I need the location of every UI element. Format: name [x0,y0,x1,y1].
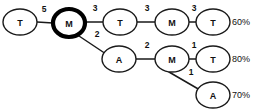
nodes-layer: TMTMTAMTA [3,9,230,108]
outcome-percentage-label: 70% [232,90,250,100]
edge-weight-label: 2 [95,29,100,39]
node-n1-t[interactable]: T [3,9,37,35]
edge-weight-label: 1 [192,40,197,50]
node-label: M [168,55,176,65]
node-label: A [116,55,123,65]
node-n3-t[interactable]: T [103,9,137,35]
node-n4-m[interactable]: M [155,9,189,35]
edge-weight-label: 3 [192,3,197,13]
node-label: T [17,18,23,28]
node-n7-m[interactable]: M [155,46,189,72]
outcomes-layer: 60%80%70% [232,17,250,100]
edge-n1-n2 [37,22,53,23]
edge-weight-label: 3 [145,3,150,13]
diagram-canvas: 53332211 TMTMTAMTA 60%80%70% [0,0,262,112]
outcome-percentage-label: 80% [232,54,250,64]
node-label: T [210,18,216,28]
node-n5-t[interactable]: T [196,9,230,35]
edge-weight-label: 1 [189,67,194,77]
graph-svg: 53332211 TMTMTAMTA 60%80%70% [0,0,262,112]
node-label: M [168,18,176,28]
node-label: T [117,18,123,28]
node-n8-t[interactable]: T [196,46,230,72]
edge-weight-label: 5 [42,4,47,14]
edge-n7-n9 [169,72,200,90]
node-label: A [210,91,217,101]
edge-weight-label: 2 [145,40,150,50]
node-n9-a[interactable]: A [196,82,230,108]
outcome-percentage-label: 60% [232,17,250,27]
edge-n2-n6 [76,34,106,54]
node-n2-m[interactable]: M [53,9,85,37]
edge-weight-label: 3 [93,3,98,13]
node-label: M [65,19,73,29]
node-label: T [210,55,216,65]
node-n6-a[interactable]: A [102,46,136,72]
